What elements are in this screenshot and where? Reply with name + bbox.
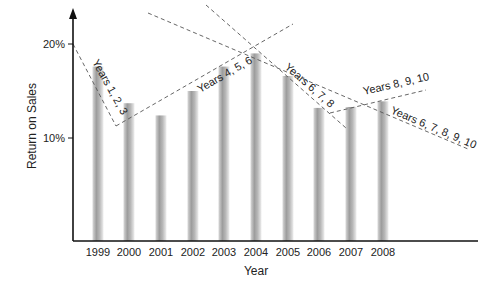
x-ticks-group: 1999200020012002200320042005200620072008 bbox=[86, 246, 395, 258]
x-tick-label: 2001 bbox=[149, 246, 173, 258]
bar-2007 bbox=[346, 107, 357, 241]
x-tick-label: 2005 bbox=[276, 246, 300, 258]
x-tick-label: 2003 bbox=[212, 246, 236, 258]
bar-1999 bbox=[93, 67, 104, 241]
y-ticks-group: 10%20% bbox=[43, 38, 73, 144]
bar-2000 bbox=[124, 103, 135, 241]
y-tick-label: 10% bbox=[43, 132, 65, 144]
bar-2004 bbox=[251, 53, 262, 241]
x-tick-label: 2004 bbox=[244, 246, 268, 258]
trendline-label: Years 8, 9, 10 bbox=[362, 70, 430, 97]
bar-2001 bbox=[156, 115, 167, 241]
x-tick-label: 1999 bbox=[86, 246, 110, 258]
bars-group bbox=[93, 53, 389, 241]
x-axis-title: Year bbox=[244, 264, 268, 278]
x-tick-label: 2000 bbox=[117, 246, 141, 258]
bar-2002 bbox=[188, 91, 199, 241]
bar-2005 bbox=[283, 76, 294, 241]
bar-2006 bbox=[314, 108, 325, 241]
x-tick-label: 2007 bbox=[339, 246, 363, 258]
bar-2008 bbox=[378, 101, 389, 241]
y-axis-title: Return on Sales bbox=[25, 83, 39, 169]
bar-2003 bbox=[219, 67, 230, 241]
return-on-sales-chart: Years 1, 2, 3Years 4, 5, 6Years 6, 7, 8Y… bbox=[0, 0, 502, 291]
x-tick-label: 2002 bbox=[181, 246, 205, 258]
trendline-2 bbox=[116, 24, 293, 126]
x-tick-label: 2006 bbox=[307, 246, 331, 258]
x-tick-label: 2008 bbox=[371, 246, 395, 258]
trendline-label: Years 6, 7, 8, 9, 10 bbox=[389, 104, 478, 151]
y-tick-label: 20% bbox=[43, 38, 65, 50]
y-axis-arrow-icon bbox=[69, 8, 77, 19]
